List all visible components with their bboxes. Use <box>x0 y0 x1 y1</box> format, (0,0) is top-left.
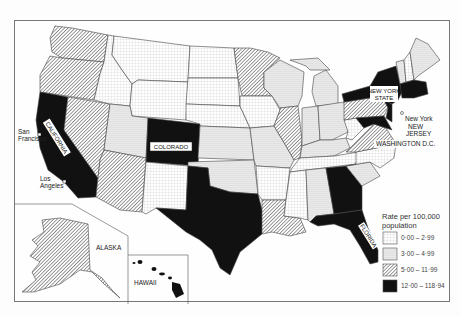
legend-swatch-medium <box>383 264 397 276</box>
legend-item-low: 3·00 – 4·99 <box>401 247 434 260</box>
state-south-dakota <box>186 78 240 106</box>
label-los-angeles-2: Angeles <box>40 182 64 190</box>
label-new-jersey: NEW <box>408 123 424 130</box>
label-alaska: ALASKA <box>96 244 122 251</box>
state-north-dakota <box>188 46 238 78</box>
label-washington-dc: WASHINGTON D.C. <box>376 140 435 147</box>
legend-swatch-lowest <box>383 232 397 244</box>
legend-item-medium: 5·00 – 11·99 <box>401 263 437 276</box>
state-arizona <box>96 150 146 212</box>
legend-item-highest: 12·00 – 118·94 <box>401 279 445 292</box>
legend-range: 0·00 – 2·99 <box>401 234 434 241</box>
state-arkansas <box>256 166 290 200</box>
label-new-jersey-2: JERSEY <box>406 130 432 137</box>
legend-range: 3·00 – 4·99 <box>401 250 434 257</box>
legend-item-lowest: 0·00 – 2·99 <box>401 231 434 244</box>
state-ohio <box>318 102 348 140</box>
label-new-york-city: New York <box>405 115 433 122</box>
legend-range: 12·00 – 118·94 <box>401 282 445 289</box>
legend-range: 5·00 – 11·99 <box>401 266 437 273</box>
legend-swatch-highest <box>383 280 397 292</box>
state-oregon <box>40 56 104 100</box>
state-wyoming <box>130 80 188 120</box>
label-colorado: COLORADO <box>154 144 189 150</box>
state-massachusetts <box>400 80 428 98</box>
label-san-francisco: San <box>18 128 30 135</box>
state-kansas <box>198 126 254 160</box>
state-alaska <box>22 218 120 298</box>
legend-title-line2: population <box>382 221 440 230</box>
legend-swatch-low <box>383 248 397 260</box>
label-hawaii: HAWAII <box>134 279 157 286</box>
label-los-angeles: Los <box>40 175 51 182</box>
label-new-york-state-2: STATE <box>375 95 393 101</box>
state-washington <box>50 26 108 62</box>
legend-title-line1: Rate per 100,000 <box>382 212 440 221</box>
state-new-mexico <box>142 162 188 214</box>
legend-title: Rate per 100,000 population <box>382 212 440 230</box>
state-indiana <box>302 106 320 146</box>
label-san-francisco-2: Francisco <box>18 135 47 142</box>
us-choropleth-map: COLORADO CALIFORNIA FLORIDA NEW YORK STA… <box>0 0 460 317</box>
label-new-york-state: NEW YORK <box>368 88 401 94</box>
state-maine <box>410 38 440 80</box>
